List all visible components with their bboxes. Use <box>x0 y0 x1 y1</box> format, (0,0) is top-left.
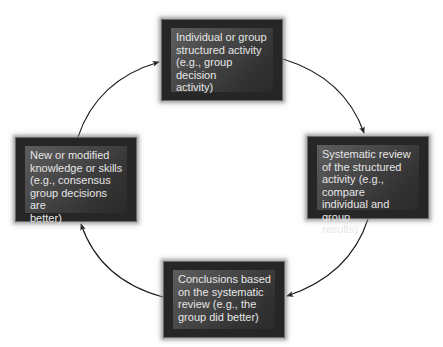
arrow-bottom-to-left <box>81 224 163 297</box>
arrow-top-to-right <box>283 59 364 133</box>
node-panel: Conclusions based on the systematic revi… <box>173 270 275 329</box>
node-systematic-review: Systematic review of the structured acti… <box>307 136 429 219</box>
node-new-knowledge: New or modified knowledge or skills (e.g… <box>15 137 137 222</box>
node-panel: Individual or group structured activity … <box>171 28 273 92</box>
node-panel: Systematic review of the structured acti… <box>317 145 419 210</box>
node-label: New or modified knowledge or skills (e.g… <box>30 149 123 224</box>
node-structured-activity: Individual or group structured activity … <box>161 19 283 101</box>
node-label: Individual or group structured activity … <box>176 31 269 94</box>
learning-cycle-diagram: Individual or group structured activity … <box>0 0 443 347</box>
arrow-left-to-top <box>78 62 159 137</box>
node-label: Systematic review of the structured acti… <box>322 148 415 236</box>
node-panel: New or modified knowledge or skills (e.g… <box>25 146 127 213</box>
node-conclusions: Conclusions based on the systematic revi… <box>163 261 285 338</box>
node-label: Conclusions based on the systematic revi… <box>178 273 271 323</box>
